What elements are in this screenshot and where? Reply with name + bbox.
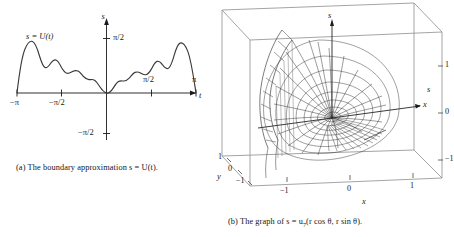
y-tick-1: 1 <box>218 152 222 161</box>
s-axis-label: s <box>102 11 105 21</box>
t-axis-label: t <box>199 90 201 100</box>
caption-a: (a) The boundary approximation s = U(t). <box>16 163 158 172</box>
x-axis-label-3d: x <box>423 99 427 109</box>
x-axis-arrowhead-3d <box>415 104 421 109</box>
panel-a-plot-area: s = U(t) t s −π −π/2 π/2 π π/2 −π/2 <box>0 0 215 160</box>
s-scale-label: s <box>427 84 430 94</box>
x-tick-0: 0 <box>347 184 351 193</box>
t-tick-label-neg-pi: −π <box>10 97 19 107</box>
panel-b-surface-graph: s x s 1 0 −1 −1 0 1 x 1 0 −1 y (b) The g… <box>214 0 449 237</box>
x-scale-ticks <box>287 173 413 182</box>
x-tick-neg-1: −1 <box>280 186 289 195</box>
caption-b-prefix: (b) The graph of s = u <box>228 217 303 226</box>
wall-drop-lines <box>276 40 294 158</box>
s-tick-1: 1 <box>445 60 449 69</box>
y-tick-neg-1: −1 <box>236 176 245 185</box>
caption-b-suffix: (r cos θ, r sin θ). <box>306 217 362 226</box>
s-tick-label-neg-half-pi: −π/2 <box>78 127 94 137</box>
interior-axes <box>258 22 420 128</box>
curve-label: s = U(t) <box>26 31 53 41</box>
lobe-leader-line <box>364 130 386 140</box>
t-tick-label-half-pi: π/2 <box>143 74 154 84</box>
t-axis-arrowhead <box>190 91 196 96</box>
x-tick-1: 1 <box>410 181 414 190</box>
t-tick-label-neg-half-pi: −π/2 <box>49 97 65 107</box>
s-tick-label-half-pi: π/2 <box>113 32 124 42</box>
y-axis-scale-label: y <box>217 171 221 181</box>
s-axis-arrowhead-3d <box>330 19 334 26</box>
s-tick-0: 0 <box>445 107 449 116</box>
t-tick-label-pi: π <box>192 74 196 84</box>
panel-a-svg <box>0 0 215 160</box>
x-axis-scale-label: x <box>362 196 366 206</box>
z-axis-label-3d: s <box>328 10 331 20</box>
panel-a-boundary-approximation: s = U(t) t s −π −π/2 π/2 π π/2 −π/2 (a) … <box>0 0 215 237</box>
caption-b: (b) The graph of s = u7(r cos θ, r sin θ… <box>228 217 362 228</box>
s-tick-neg-1: −1 <box>445 154 454 163</box>
circumferential-rings <box>264 40 400 160</box>
left-fold-wall <box>260 30 292 178</box>
y-tick-0: 0 <box>228 164 232 173</box>
